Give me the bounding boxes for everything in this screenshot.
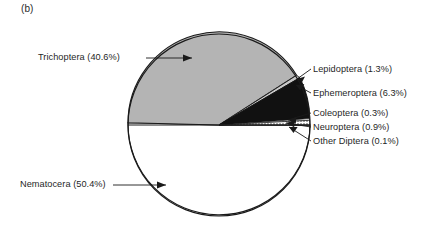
label-lepidoptera: Lepidoptera (1.3%)	[313, 64, 392, 74]
label-trichoptera: Trichoptera (40.6%)	[38, 52, 120, 62]
label-coleoptera: Coleoptera (0.3%)	[313, 108, 388, 118]
label-ephemeroptera: Ephemeroptera (6.3%)	[313, 88, 407, 98]
label-other-diptera: Other Diptera (0.1%)	[313, 136, 399, 146]
label-nematocera: Nematocera (50.4%)	[20, 179, 106, 189]
pie-slice-nematocera	[128, 123, 310, 215]
pie-chart-figure: (b)	[0, 0, 430, 237]
label-neuroptera: Neuroptera (0.9%)	[313, 122, 389, 132]
pie-chart-graphic	[0, 0, 430, 237]
